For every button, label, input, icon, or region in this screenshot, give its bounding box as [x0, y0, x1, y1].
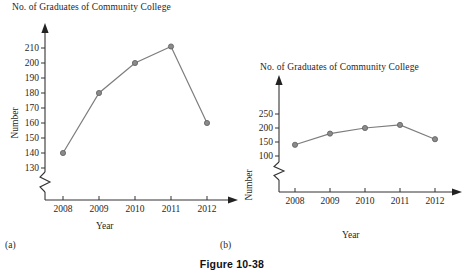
chart-panel-b: No. of Graduates of Community College 10…: [224, 52, 464, 252]
svg-text:2008: 2008: [54, 204, 73, 214]
svg-text:100: 100: [259, 151, 274, 161]
svg-text:2008: 2008: [286, 196, 305, 206]
svg-text:140: 140: [25, 148, 40, 158]
x-axis-label-a: Year: [96, 221, 114, 231]
svg-text:180: 180: [25, 88, 40, 98]
line-chart-b: 10015020025020082009201020112012: [224, 52, 464, 232]
svg-text:2009: 2009: [90, 204, 109, 214]
line-chart-a: 1301401501601701801902002102008200920102…: [0, 0, 232, 220]
svg-text:160: 160: [25, 118, 40, 128]
svg-text:2010: 2010: [356, 196, 375, 206]
svg-text:2011: 2011: [391, 196, 410, 206]
svg-text:2010: 2010: [126, 204, 145, 214]
svg-text:130: 130: [25, 163, 40, 173]
panel-caption-a: (a): [5, 240, 16, 250]
svg-text:2009: 2009: [321, 196, 340, 206]
svg-text:190: 190: [25, 73, 40, 83]
svg-text:170: 170: [25, 103, 40, 113]
x-axis-label-b: Year: [342, 230, 360, 240]
svg-text:250: 250: [259, 109, 274, 119]
svg-text:200: 200: [25, 58, 40, 68]
y-axis-label-a: Number: [10, 100, 20, 146]
svg-text:2012: 2012: [198, 204, 217, 214]
svg-text:2012: 2012: [426, 196, 445, 206]
svg-text:210: 210: [25, 43, 40, 53]
chart-panel-a: No. of Graduates of Community College 13…: [0, 0, 232, 250]
panel-caption-b: (b): [220, 240, 231, 250]
svg-text:150: 150: [259, 137, 274, 147]
svg-text:200: 200: [259, 123, 274, 133]
y-axis-label-b: Number: [244, 162, 254, 208]
figure-caption: Figure 10-38: [0, 258, 464, 270]
svg-text:2011: 2011: [162, 204, 181, 214]
svg-text:150: 150: [25, 133, 40, 143]
